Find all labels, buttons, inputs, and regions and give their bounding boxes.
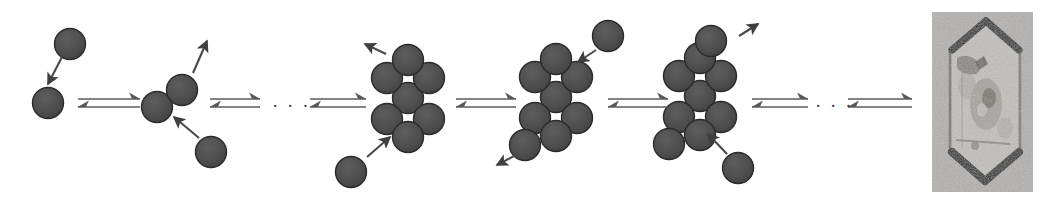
- detachment-arrow: [365, 44, 386, 54]
- stages-layer: [33, 21, 759, 188]
- stage-1-monomer: [33, 29, 86, 119]
- equilibrium-arrow: [752, 99, 808, 107]
- equilibrium-arrow: [78, 99, 140, 107]
- free-monomer: [336, 157, 367, 188]
- equilibrium-arrow: [310, 99, 366, 107]
- detachment-arrow: [193, 41, 207, 73]
- attachment-arrow: [578, 50, 596, 62]
- cluster-particle: [541, 121, 572, 152]
- ellipsis-1: · · ·: [272, 96, 310, 115]
- stage-5-nonamer: [654, 24, 759, 184]
- detachment-arrow: [497, 155, 516, 165]
- detachment-arrow: [739, 24, 758, 36]
- stage-2-dimer: [142, 41, 227, 168]
- nucleation-growth-figure: · · · · · ·: [0, 0, 1051, 203]
- attachment-arrow: [367, 137, 390, 157]
- cluster-particle: [654, 129, 685, 160]
- equilibrium-arrow: [608, 99, 668, 107]
- free-monomer: [723, 153, 754, 184]
- crystal-micrograph: [932, 12, 1033, 192]
- ellipsis-2: · · ·: [815, 96, 853, 115]
- cluster-particle: [33, 88, 64, 119]
- cluster-particle: [393, 45, 424, 76]
- free-monomer: [593, 21, 624, 52]
- equilibrium-arrow: [210, 99, 260, 107]
- equilibrium-arrow: [848, 99, 912, 107]
- cluster-particle: [696, 26, 727, 57]
- figure-canvas: [0, 0, 1051, 203]
- attachment-arrow: [174, 117, 199, 138]
- stage-3-heptamer: [336, 44, 445, 188]
- stage-4-octamer: [497, 21, 624, 166]
- cluster-particle: [167, 75, 198, 106]
- cluster-particle: [393, 122, 424, 153]
- equilibrium-arrow: [456, 99, 516, 107]
- attachment-arrow: [48, 57, 62, 84]
- cluster-particle: [685, 120, 716, 151]
- cluster-particle: [541, 44, 572, 75]
- free-monomer: [55, 29, 86, 60]
- free-monomer: [196, 137, 227, 168]
- equilibrium-arrows-layer: [78, 99, 912, 107]
